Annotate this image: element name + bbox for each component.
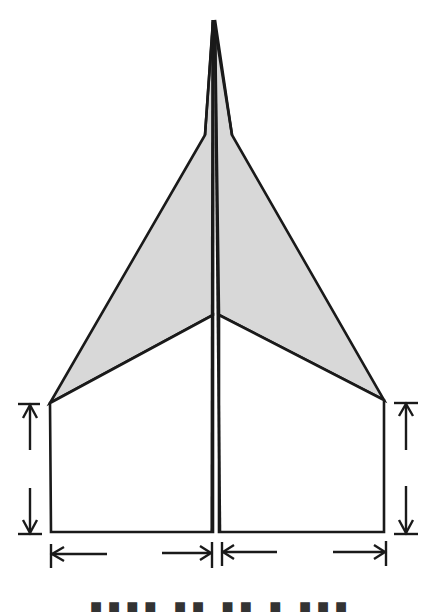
center-keel-left xyxy=(212,20,213,532)
left-width-arrow xyxy=(51,542,212,568)
left-height-arrow xyxy=(18,404,42,534)
right-width-arrow xyxy=(222,541,386,566)
right-height-arrow xyxy=(394,403,418,534)
diagram-caption: ■■■■ ■■ ■■ ■ ■■■ xyxy=(90,596,350,616)
